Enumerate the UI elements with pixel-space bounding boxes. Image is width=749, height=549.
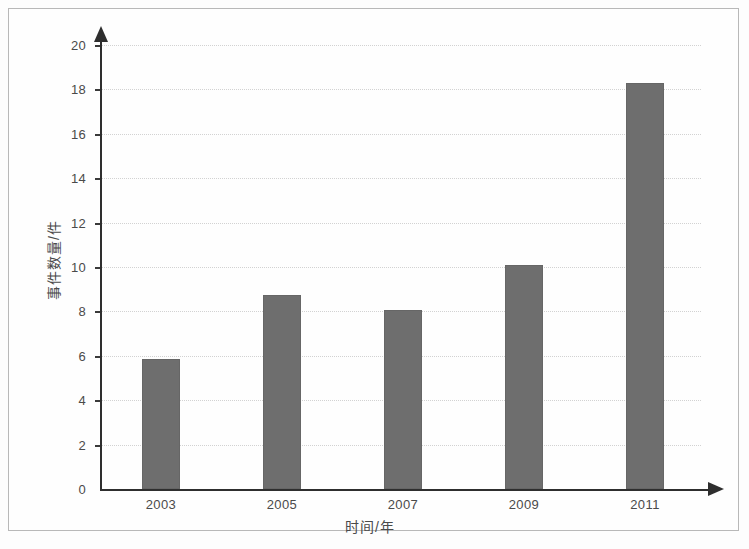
bar-2007 [384, 310, 422, 489]
xtick-label-2007: 2007 [363, 497, 443, 513]
ytick-label-20: 20 [52, 39, 86, 52]
x-axis-title: 时间/年 [280, 516, 460, 536]
gridline-12 [101, 223, 701, 224]
ytick-label-14: 14 [52, 172, 86, 185]
ytick-label-0: 0 [52, 483, 86, 496]
plot-area: 20 18 16 14 12 10 8 6 4 2 0 2003 2005 20… [0, 0, 749, 549]
gridline-10 [101, 267, 701, 268]
chart-page: 20 18 16 14 12 10 8 6 4 2 0 2003 2005 20… [0, 0, 749, 549]
y-axis-arrow-icon [94, 26, 108, 42]
ytick-label-2: 2 [52, 439, 86, 452]
bar-2009 [505, 265, 543, 489]
y-axis-line [100, 40, 102, 490]
x-axis-arrow-icon [708, 482, 724, 496]
bar-2011 [626, 83, 664, 489]
xtick-label-2009: 2009 [484, 497, 564, 513]
ytick-label-18: 18 [52, 83, 86, 96]
bar-2005 [263, 295, 301, 489]
gridline-16 [101, 134, 701, 135]
ytick-label-6: 6 [52, 350, 86, 363]
y-axis-title: 事件数量/件 [43, 195, 63, 325]
xtick-label-2005: 2005 [242, 497, 322, 513]
bar-2003 [142, 359, 180, 489]
ytick-label-4: 4 [52, 394, 86, 407]
gridline-14 [101, 178, 701, 179]
gridline-20 [101, 45, 701, 46]
ytick-label-16: 16 [52, 128, 86, 141]
xtick-label-2003: 2003 [121, 497, 201, 513]
xtick-label-2011: 2011 [605, 497, 685, 513]
x-axis-line [100, 489, 710, 491]
gridline-18 [101, 89, 701, 90]
